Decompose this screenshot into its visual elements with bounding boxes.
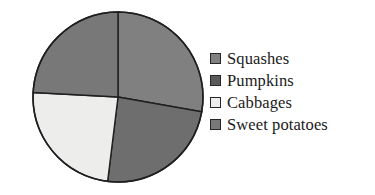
pie-chart-svg (0, 0, 210, 195)
legend-swatch-icon-sweet-potatoes (210, 119, 221, 130)
pie-chart-screenshot: Squashes Pumpkins Cabbages Sweet potatoe… (0, 0, 375, 195)
legend-label-sweet-potatoes: Sweet potatoes (227, 116, 328, 134)
pie-slice-pumpkins[interactable] (108, 97, 202, 182)
pie-chart (0, 0, 210, 195)
pie-slice-squashes[interactable] (118, 12, 203, 112)
pie-slice-sweet-potatoes[interactable] (33, 12, 118, 97)
legend-item-squashes[interactable]: Squashes (210, 48, 375, 69)
legend-swatch-icon-pumpkins (210, 75, 221, 86)
pie-slice-cabbages[interactable] (33, 93, 118, 182)
legend-label-cabbages: Cabbages (227, 94, 292, 112)
pie-slice-group (33, 12, 203, 182)
legend-swatch-icon-cabbages (210, 97, 221, 108)
chart-legend: Squashes Pumpkins Cabbages Sweet potatoe… (210, 48, 375, 135)
legend-swatch-icon-squashes (210, 53, 221, 64)
legend-label-pumpkins: Pumpkins (227, 72, 294, 90)
legend-item-pumpkins[interactable]: Pumpkins (210, 70, 375, 91)
legend-item-cabbages[interactable]: Cabbages (210, 92, 375, 113)
legend-label-squashes: Squashes (227, 50, 289, 68)
legend-item-sweet-potatoes[interactable]: Sweet potatoes (210, 114, 375, 135)
